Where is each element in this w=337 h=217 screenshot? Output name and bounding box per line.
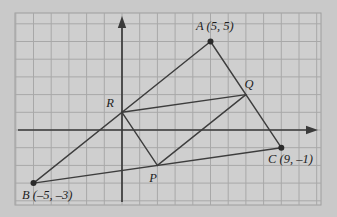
point-label-c: C (9, –1) [268,152,313,166]
point-label-p: P [148,171,157,185]
point-label-b: B (–5, –3) [22,188,72,202]
point-marker-b [31,180,37,186]
figure-container: A (5, 5)B (–5, –3)C (9, –1)PQR [0,0,337,217]
point-label-r: R [105,96,114,110]
coordinate-plane-figure: A (5, 5)B (–5, –3)C (9, –1)PQR [0,0,337,217]
point-marker-a [208,39,214,45]
point-marker-c [278,145,284,151]
point-label-a: A (5, 5) [195,19,234,33]
point-label-q: Q [244,77,253,91]
